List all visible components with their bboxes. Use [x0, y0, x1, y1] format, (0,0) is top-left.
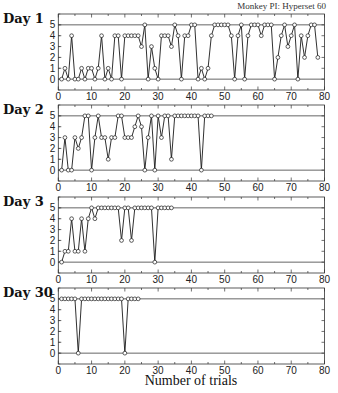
data-point — [170, 206, 174, 210]
data-point — [196, 114, 200, 118]
data-point — [133, 125, 137, 129]
y-tick-label: 4 — [50, 121, 56, 132]
x-tick-label: 60 — [252, 182, 264, 193]
data-point — [276, 56, 280, 60]
x-tick-label: 40 — [186, 91, 198, 102]
data-point — [256, 23, 260, 27]
data-point — [209, 114, 213, 118]
x-tick-label: 70 — [286, 274, 298, 285]
panel-label: Day 30 — [3, 285, 53, 300]
data-point — [96, 66, 100, 70]
data-point — [166, 114, 170, 118]
data-point — [76, 351, 80, 355]
panel-day-1: 01234501020304050607080Day 1 — [3, 11, 330, 102]
x-tick-label: 0 — [56, 91, 62, 102]
y-tick-label: 1 — [50, 246, 56, 257]
data-point — [63, 66, 67, 70]
data-point — [166, 34, 170, 38]
data-point — [269, 23, 273, 27]
x-tick-label: 20 — [119, 365, 131, 376]
x-tick-label: 70 — [286, 182, 298, 193]
data-point — [126, 206, 130, 210]
data-point — [293, 23, 297, 27]
data-point — [176, 34, 180, 38]
y-tick-label: 5 — [50, 202, 56, 213]
data-point — [63, 136, 67, 140]
data-point — [196, 77, 200, 81]
data-point — [233, 77, 237, 81]
data-point — [146, 77, 150, 81]
x-tick-label: 40 — [186, 182, 198, 193]
data-point — [209, 34, 213, 38]
y-tick-label: 5 — [50, 19, 56, 30]
panel-day-30: 01234501020304050607080Day 30 — [3, 285, 330, 376]
data-point — [156, 77, 160, 81]
y-tick-label: 2 — [50, 326, 56, 337]
x-tick-label: 0 — [56, 365, 62, 376]
data-point — [93, 136, 97, 140]
data-point — [153, 260, 157, 264]
figure-caption: Monkey PI: Hyperset 60 — [237, 1, 326, 11]
data-point — [150, 206, 154, 210]
data-point — [66, 249, 70, 253]
data-point — [76, 147, 80, 151]
data-point — [156, 114, 160, 118]
data-point — [236, 34, 240, 38]
data-point — [316, 56, 320, 60]
data-point — [130, 136, 134, 140]
data-point — [173, 23, 177, 27]
data-point — [303, 56, 307, 60]
data-point — [259, 34, 263, 38]
data-point — [146, 136, 150, 140]
data-point — [120, 77, 124, 81]
data-point — [120, 239, 124, 243]
data-line — [62, 208, 172, 262]
x-tick-label: 60 — [252, 274, 264, 285]
data-point — [143, 168, 147, 172]
data-point — [106, 66, 110, 70]
y-tick-label: 3 — [50, 315, 56, 326]
data-point — [153, 168, 157, 172]
x-tick-label: 30 — [153, 182, 165, 193]
data-point — [193, 23, 197, 27]
data-point — [170, 157, 174, 161]
data-point — [239, 23, 243, 27]
data-point — [90, 66, 94, 70]
data-point — [70, 34, 74, 38]
y-tick-label: 2 — [50, 143, 56, 154]
data-point — [86, 217, 90, 221]
y-tick-label: 4 — [50, 30, 56, 41]
x-tick-label: 10 — [86, 274, 98, 285]
figure: Monkey PI: Hyperset 60 01234501020304050… — [0, 0, 338, 393]
data-point — [116, 34, 120, 38]
data-point — [70, 217, 74, 221]
chart-canvas: Monkey PI: Hyperset 60 01234501020304050… — [0, 0, 338, 393]
y-tick-label: 5 — [50, 110, 56, 121]
x-tick-label: 30 — [153, 91, 165, 102]
data-point — [136, 34, 140, 38]
y-tick-label: 0 — [50, 165, 56, 176]
data-point — [86, 114, 90, 118]
data-point — [160, 136, 164, 140]
panel-label: Day 3 — [3, 194, 44, 209]
y-tick-label: 0 — [50, 257, 56, 268]
x-tick-label: 40 — [186, 274, 198, 285]
x-tick-label: 80 — [319, 182, 331, 193]
data-point — [66, 77, 70, 81]
y-tick-label: 3 — [50, 132, 56, 143]
data-point — [289, 34, 293, 38]
data-point — [140, 45, 144, 49]
data-point — [296, 77, 300, 81]
x-tick-label: 20 — [119, 182, 131, 193]
data-point — [186, 34, 190, 38]
data-point — [153, 66, 157, 70]
data-point — [103, 136, 107, 140]
data-point — [246, 34, 250, 38]
data-point — [286, 45, 290, 49]
data-point — [80, 66, 84, 70]
data-point — [116, 206, 120, 210]
data-point — [123, 351, 127, 355]
data-point — [60, 77, 64, 81]
y-tick-label: 1 — [50, 337, 56, 348]
data-point — [299, 34, 303, 38]
